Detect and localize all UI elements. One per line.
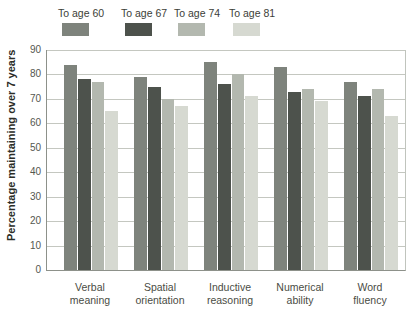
- category-label-numerical: Numericalability: [263, 281, 337, 307]
- y-tick-label-10: 10: [11, 241, 41, 251]
- legend-item: To age 60: [58, 7, 114, 36]
- legend-label: To age 74: [174, 7, 230, 19]
- bar-group-inductive: [204, 50, 258, 270]
- y-tick-label-0: 0: [11, 265, 41, 275]
- category-label-line1: Spatial: [123, 281, 197, 294]
- legend-label: To age 67: [121, 7, 177, 19]
- category-label-line1: Inductive: [193, 281, 267, 294]
- y-tick-label-40: 40: [11, 167, 41, 177]
- category-label-line2: orientation: [123, 294, 197, 307]
- category-label-verbal: Verbalmeaning: [53, 281, 127, 307]
- category-label-line1: Word: [333, 281, 407, 294]
- bar-group-word: [344, 50, 398, 270]
- bar-spatial-to-age-74: [162, 99, 175, 270]
- category-label-word: Wordfluency: [333, 281, 407, 307]
- category-label-line2: ability: [263, 294, 337, 307]
- y-tick-label-60: 60: [11, 118, 41, 128]
- y-tick-label-30: 30: [11, 192, 41, 202]
- bar-word-to-age-60: [344, 82, 357, 270]
- legend-label: To age 81: [229, 7, 285, 19]
- legend-swatch: [233, 23, 260, 36]
- bar-spatial-to-age-67: [148, 87, 161, 270]
- category-label-line1: Verbal: [53, 281, 127, 294]
- category-label-line2: meaning: [53, 294, 127, 307]
- bar-inductive-to-age-67: [218, 84, 231, 270]
- bar-spatial-to-age-60: [134, 77, 147, 270]
- y-tick-label-90: 90: [11, 45, 41, 55]
- category-label-inductive: Inductivereasoning: [193, 281, 267, 307]
- legend-item: To age 67: [121, 7, 177, 36]
- bar-inductive-to-age-74: [232, 74, 245, 270]
- bar-verbal-to-age-74: [92, 82, 105, 270]
- bar-word-to-age-81: [385, 116, 398, 270]
- y-tick-label-70: 70: [11, 94, 41, 104]
- bar-group-verbal: [64, 50, 118, 270]
- y-tick-label-50: 50: [11, 143, 41, 153]
- bar-spatial-to-age-81: [175, 106, 188, 270]
- category-label-spatial: Spatialorientation: [123, 281, 197, 307]
- y-tick-label-20: 20: [11, 216, 41, 226]
- bar-numerical-to-age-67: [288, 92, 301, 270]
- bar-inductive-to-age-60: [204, 62, 217, 270]
- bar-word-to-age-67: [358, 96, 371, 270]
- legend-item: To age 81: [229, 7, 285, 36]
- bar-verbal-to-age-67: [78, 79, 91, 270]
- bar-word-to-age-74: [372, 89, 385, 270]
- bar-numerical-to-age-74: [302, 89, 315, 270]
- category-label-line2: reasoning: [193, 294, 267, 307]
- bar-numerical-to-age-60: [274, 67, 287, 270]
- bar-chart-figure: To age 60To age 67To age 74To age 81 Per…: [0, 0, 416, 317]
- y-tick-label-80: 80: [11, 69, 41, 79]
- bar-group-numerical: [274, 50, 328, 270]
- bar-inductive-to-age-81: [245, 96, 258, 270]
- legend-item: To age 74: [174, 7, 230, 36]
- bar-verbal-to-age-81: [105, 111, 118, 270]
- bar-numerical-to-age-81: [315, 101, 328, 270]
- category-label-line1: Numerical: [263, 281, 337, 294]
- bar-verbal-to-age-60: [64, 65, 77, 270]
- legend-swatch: [62, 23, 89, 36]
- legend-swatch: [178, 23, 205, 36]
- plot-area: [46, 50, 406, 271]
- category-label-line2: fluency: [333, 294, 407, 307]
- legend-label: To age 60: [58, 7, 114, 19]
- bar-group-spatial: [134, 50, 188, 270]
- legend-swatch: [125, 23, 152, 36]
